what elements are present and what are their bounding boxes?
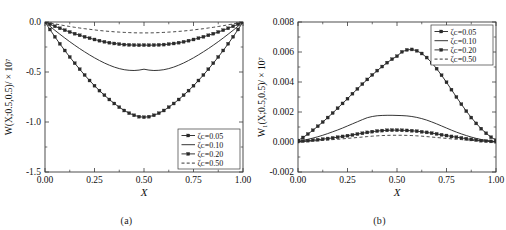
series-marker-0: [48, 28, 51, 31]
series-marker-2: [480, 139, 483, 142]
series-marker-2: [58, 27, 61, 30]
legend-marker-2: [440, 48, 443, 51]
series-marker-0: [88, 79, 91, 82]
legend-label-2: ζᴄ=0.20: [451, 46, 477, 55]
series-marker-2: [167, 43, 170, 46]
y-tick-label: 0.008: [273, 17, 295, 27]
series-marker-2: [157, 43, 160, 46]
series-marker-0: [351, 92, 354, 95]
series-marker-0: [202, 74, 205, 77]
series-marker-2: [356, 133, 359, 136]
x-tick-label: 0.50: [136, 175, 153, 185]
series-marker-2: [78, 34, 81, 37]
series-marker-2: [425, 131, 428, 134]
series-marker-2: [73, 32, 76, 35]
series-marker-0: [306, 133, 309, 136]
x-axis-label: X: [393, 186, 402, 198]
series-marker-0: [435, 67, 438, 70]
series-marker-0: [108, 98, 111, 101]
series-marker-2: [331, 136, 334, 139]
series-marker-0: [98, 89, 101, 92]
series-marker-2: [366, 131, 369, 134]
series-marker-0: [147, 115, 150, 118]
series-marker-2: [113, 42, 116, 45]
series-marker-2: [410, 129, 413, 132]
series-marker-0: [237, 28, 240, 31]
series-marker-2: [435, 132, 438, 135]
series-marker-2: [108, 41, 111, 44]
series-marker-2: [123, 43, 126, 46]
series-marker-0: [470, 116, 473, 119]
series-marker-2: [460, 136, 463, 139]
series-marker-0: [182, 94, 185, 97]
panel-a-caption: (a): [0, 215, 253, 226]
series-marker-0: [118, 106, 121, 109]
legend-label-2: ζᴄ=0.20: [198, 150, 224, 159]
series-marker-0: [83, 74, 86, 77]
series-marker-0: [391, 58, 394, 61]
series-marker-2: [197, 37, 200, 40]
series-marker-2: [381, 129, 384, 132]
series-marker-0: [346, 97, 349, 100]
series-marker-2: [420, 130, 423, 133]
series-marker-2: [400, 129, 403, 132]
series-marker-0: [78, 68, 81, 71]
series-marker-2: [227, 27, 230, 30]
series-marker-2: [162, 43, 165, 46]
legend-label-3: ζᴄ=0.50: [198, 159, 224, 168]
series-marker-2: [361, 132, 364, 135]
series-marker-2: [371, 130, 374, 133]
series-marker-2: [103, 40, 106, 43]
x-tick-label: 0.25: [86, 175, 103, 185]
series-marker-2: [63, 29, 66, 32]
series-marker-0: [217, 56, 220, 59]
series-marker-2: [415, 130, 418, 133]
series-marker-0: [485, 132, 488, 135]
series-marker-2: [182, 40, 185, 43]
series-marker-0: [376, 69, 379, 72]
series-marker-2: [207, 34, 210, 37]
series-marker-2: [455, 136, 458, 139]
series-marker-0: [212, 62, 215, 65]
series-marker-0: [232, 35, 235, 38]
series-marker-2: [346, 134, 349, 137]
x-tick-label: 0.75: [185, 175, 202, 185]
series-marker-0: [410, 48, 413, 51]
series-marker-0: [405, 48, 408, 51]
series-marker-2: [351, 133, 354, 136]
panel-b: 0.000.250.500.751.000.0080.0060.0040.002…: [253, 0, 506, 230]
series-marker-0: [465, 110, 468, 113]
series-marker-2: [232, 25, 235, 28]
series-marker-0: [480, 127, 483, 130]
y-axis-label: W(X;0.5,0.5)/ × 10⁷: [4, 59, 15, 135]
plot-a: 0.000.250.500.751.000.0-0.5-1.0-1.5XW(X;…: [0, 0, 253, 230]
legend-label-0: ζᴄ=0.05: [198, 132, 224, 141]
series-marker-0: [316, 125, 319, 128]
series-marker-2: [128, 43, 131, 46]
y-tick-label: 0.002: [273, 107, 295, 117]
series-marker-2: [138, 44, 141, 47]
series-marker-2: [341, 135, 344, 138]
y-tick-label: 0.000: [273, 137, 295, 147]
x-tick-label: 0.75: [438, 175, 455, 185]
series-marker-0: [420, 52, 423, 55]
x-tick-label: 0.25: [339, 175, 356, 185]
legend-label-1: ζᴄ=0.10: [451, 37, 477, 46]
series-marker-2: [430, 132, 433, 135]
series-marker-0: [336, 107, 339, 110]
legend-label-1: ζᴄ=0.10: [198, 141, 224, 150]
series-marker-0: [162, 109, 165, 112]
series-marker-2: [217, 31, 220, 34]
series-marker-2: [445, 134, 448, 137]
series-marker-2: [177, 41, 180, 44]
series-marker-0: [103, 94, 106, 97]
series-marker-0: [113, 102, 116, 105]
series-marker-0: [128, 112, 131, 115]
series-marker-2: [147, 44, 150, 47]
legend-label-3: ζᴄ=0.50: [451, 55, 477, 64]
y-tick-label: -0.002: [269, 167, 294, 177]
series-marker-2: [118, 43, 121, 46]
series-marker-0: [138, 115, 141, 118]
series-marker-0: [381, 65, 384, 68]
legend-label-0: ζᴄ=0.05: [451, 28, 477, 37]
